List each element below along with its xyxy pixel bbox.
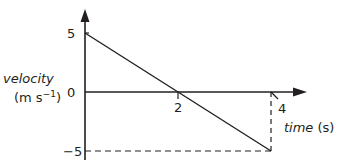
x-axis-label: time (s) <box>284 120 334 135</box>
y-tick-label-0: 0 <box>67 85 75 100</box>
x-axis-arrow-icon <box>293 88 307 97</box>
y-axis-label-word: velocity <box>3 71 54 86</box>
x-tick-label-2: 2 <box>174 100 182 115</box>
x-tick-label-4: 4 <box>278 101 286 116</box>
x-tick-4-leader <box>271 92 278 99</box>
y-tick-label-neg5: −5 <box>63 144 82 159</box>
y-axis-arrow-icon <box>81 9 90 22</box>
y-axis-label-unit: (m s−1) <box>14 89 61 105</box>
velocity-time-graph: 5 0 −5 2 4 velocity (m s−1) time (s) <box>0 0 345 168</box>
y-tick-label-5: 5 <box>67 26 75 41</box>
